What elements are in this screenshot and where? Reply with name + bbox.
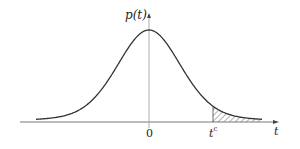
y-axis-arrow-icon — [147, 13, 151, 18]
y-axis-label: p(t) — [125, 9, 147, 21]
x-axis-label: t — [274, 126, 278, 137]
origin-tick-label: 0 — [146, 128, 153, 139]
critical-value-superscript: c — [213, 125, 217, 133]
critical-value-label: tc — [209, 127, 217, 139]
x-axis-arrow-icon — [273, 120, 279, 124]
shaded-tail-region — [213, 106, 262, 122]
